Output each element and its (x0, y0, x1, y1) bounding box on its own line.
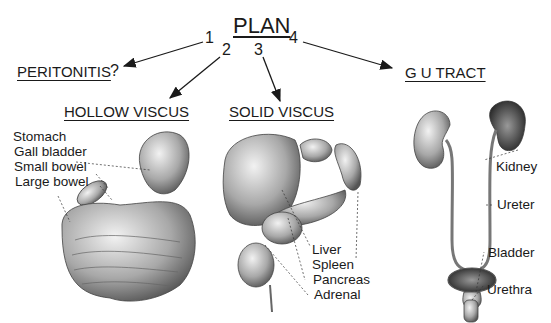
heading-hollow-viscus: HOLLOW VISCUS (64, 104, 189, 119)
label-pancreas: Pancreas (313, 273, 370, 287)
heading-peritonitis: PERITONITIS (17, 64, 111, 79)
label-urethra: Urethra (487, 283, 532, 297)
label-stomach: Stomach (13, 130, 66, 144)
arrow-3 (263, 57, 280, 101)
arrow-1 (124, 42, 203, 66)
arrow-2 (170, 57, 220, 98)
label-adrenal: Adrenal (314, 288, 361, 302)
arrow-4 (303, 42, 392, 68)
label-kidney: Kidney (496, 160, 537, 174)
label-spleen: Spleen (312, 258, 354, 272)
branch-number-1: 1 (205, 30, 214, 46)
label-small-bowel: Small bowel (14, 160, 87, 174)
label-large-bowel: Large bowel (15, 175, 89, 189)
peritonitis-question-mark: ? (110, 63, 119, 79)
heading-gu-tract: G U TRACT (405, 65, 486, 80)
branch-number-2: 2 (222, 42, 231, 58)
branch-number-4: 4 (289, 30, 298, 46)
branch-number-3: 3 (254, 42, 263, 58)
plan-title: PLAN (233, 15, 290, 37)
label-gall-bladder: Gall bladder (14, 145, 87, 159)
label-liver: Liver (312, 243, 341, 257)
heading-solid-viscus: SOLID VISCUS (229, 104, 334, 119)
label-ureter: Ureter (497, 198, 535, 212)
label-bladder: Bladder (488, 246, 535, 260)
